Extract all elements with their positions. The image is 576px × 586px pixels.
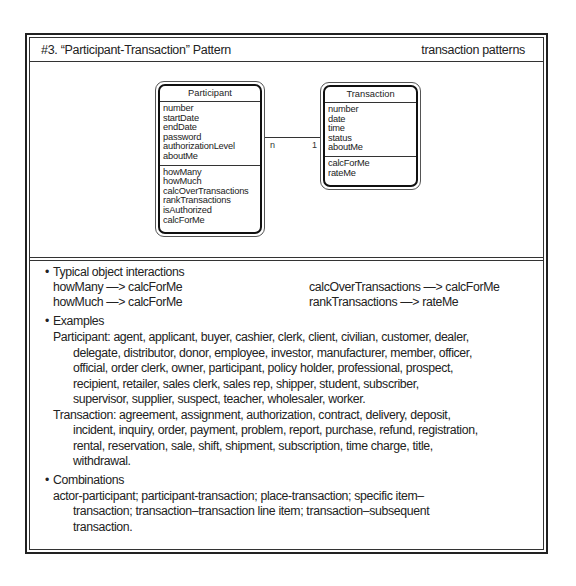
interaction-item: calcOverTransactions —> calcForMe: [309, 280, 500, 296]
combinations-heading: Combinations: [45, 473, 124, 489]
example-transaction-line: incident, inquiry, order, payment, probl…: [73, 423, 478, 439]
example-transaction-line: rental, reservation, sale, shift, shipme…: [73, 439, 433, 455]
class-name: Transaction: [325, 87, 416, 103]
association-line: [265, 137, 321, 138]
service: rateMe: [328, 169, 413, 179]
combination-line: transaction.: [73, 520, 132, 536]
example-transaction-line: withdrawal.: [73, 454, 131, 470]
interaction-item: howMuch —> calcForMe: [53, 295, 182, 311]
multiplicity-transaction: 1: [312, 140, 317, 150]
attributes-section: number date time status aboutMe: [325, 103, 416, 156]
attribute: aboutMe: [328, 143, 413, 153]
attribute: aboutMe: [163, 152, 257, 162]
pattern-notes: Typical object interactions howMany —> c…: [30, 260, 543, 549]
multiplicity-participant: n: [270, 140, 275, 150]
class-diagram: Participant number startDate endDate pas…: [30, 62, 543, 257]
services-section: calcForMe rateMe: [325, 156, 416, 181]
example-participant-line: delegate, distributor, donor, employee, …: [73, 346, 472, 362]
combination-line: actor-participant; participant-transacti…: [53, 489, 424, 505]
class-box-transaction: Transaction number date time status abou…: [320, 82, 421, 190]
pattern-header: #3. “Participant-Transaction” Pattern tr…: [30, 38, 543, 62]
example-participant-line: official, order clerk, owner, participan…: [73, 361, 453, 377]
examples-heading: Examples: [45, 314, 104, 330]
service: calcForMe: [163, 216, 257, 226]
interactions-heading: Typical object interactions: [45, 265, 184, 281]
combination-line: transaction; transaction–transaction lin…: [73, 504, 429, 520]
example-transaction-line: Transaction: agreement, assignment, auth…: [53, 408, 451, 424]
example-participant-line: supervisor, supplier, suspect, teacher, …: [73, 392, 365, 408]
pattern-card: #3. “Participant-Transaction” Pattern tr…: [25, 33, 548, 554]
services-section: howMany howMuch calcOverTransactions ran…: [160, 165, 260, 229]
example-participant-line: Participant: agent, applicant, buyer, ca…: [53, 330, 469, 346]
class-name: Participant: [160, 86, 260, 102]
example-participant-line: recipient, retailer, sales clerk, sales …: [73, 377, 419, 393]
pattern-category: transaction patterns: [421, 43, 525, 57]
attributes-section: number startDate endDate password author…: [160, 102, 260, 165]
pattern-card-inner: #3. “Participant-Transaction” Pattern tr…: [29, 37, 544, 550]
interaction-item: rankTransactions —> rateMe: [309, 295, 458, 311]
interaction-item: howMany —> calcForMe: [53, 280, 182, 296]
class-box-participant: Participant number startDate endDate pas…: [155, 81, 265, 237]
pattern-title: #3. “Participant-Transaction” Pattern: [41, 43, 231, 57]
